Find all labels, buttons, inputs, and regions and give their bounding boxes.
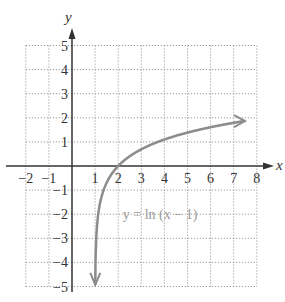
- y-tick-label: −5: [53, 280, 68, 295]
- equation-label: y = ln (x − 1): [123, 207, 198, 223]
- x-tick-label: 2: [115, 171, 122, 186]
- y-tick-label: 5: [61, 39, 68, 54]
- x-tick-label: 1: [92, 171, 99, 186]
- x-axis-arrow-icon: [263, 163, 274, 170]
- y-tick-label: −3: [53, 231, 68, 246]
- y-tick-label: 1: [61, 135, 68, 150]
- y-axis-label: y: [63, 9, 72, 25]
- curve-path: [95, 121, 244, 284]
- y-tick-label: 2: [61, 111, 68, 126]
- x-tick-label: 6: [207, 171, 214, 186]
- y-tick-label: −4: [53, 255, 68, 270]
- x-tick-label: 7: [230, 171, 237, 186]
- x-tick-label: 8: [253, 171, 260, 186]
- y-tick-label: 3: [61, 87, 68, 102]
- x-tick-label: −2: [18, 171, 33, 186]
- chart-canvas: x y −2−11234567854321−1−2−3−4−5 y = ln (…: [0, 0, 285, 302]
- x-tick-label: 3: [138, 171, 145, 186]
- y-tick-label: −1: [53, 183, 68, 198]
- x-tick-label: 4: [161, 171, 168, 186]
- y-tick-label: −2: [53, 207, 68, 222]
- axes: x y: [6, 9, 283, 292]
- y-axis-arrow-icon: [69, 28, 76, 39]
- x-tick-label: 5: [184, 171, 191, 186]
- curve-ln: [90, 115, 245, 285]
- y-tick-label: 4: [61, 63, 68, 78]
- x-axis-label: x: [275, 157, 283, 173]
